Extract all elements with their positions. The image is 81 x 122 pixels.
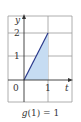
x-axis-label: t: [65, 83, 69, 93]
y-axis-arrow-icon: [22, 14, 26, 19]
caption-argument: (1): [28, 108, 41, 118]
chart-figure: y 2 1 0 1 t: [0, 0, 81, 104]
origin-label: 0: [13, 83, 19, 93]
y-tick-1: 1: [14, 51, 20, 61]
chart-caption: g(1) = 1: [0, 108, 81, 118]
y-tick-2: 2: [14, 28, 20, 38]
caption-value: = 1: [40, 108, 59, 118]
x-tick-1: 1: [45, 83, 51, 93]
y-axis-label: y: [14, 15, 21, 25]
